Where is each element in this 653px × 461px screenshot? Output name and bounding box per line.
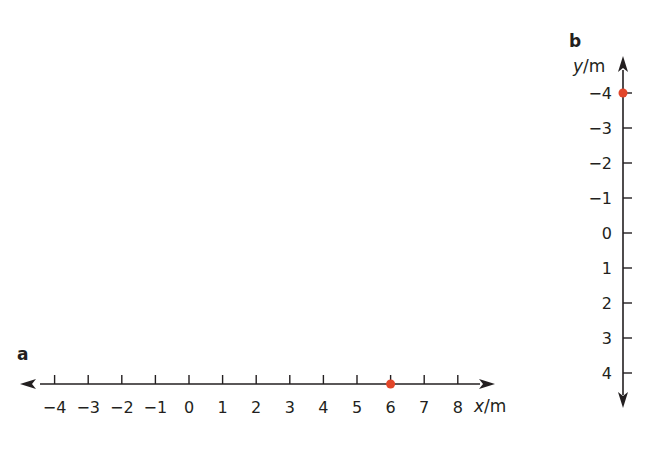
y-data-point (619, 89, 628, 98)
x-tick-label: 6 (386, 398, 396, 417)
y-tick-label: −4 (588, 84, 612, 103)
y-tick-label: −2 (588, 154, 612, 173)
y-axis-tick-labels: −4−3−2−101234 (588, 84, 612, 383)
x-tick-label: 4 (318, 398, 328, 417)
y-axis-unit: /m (583, 56, 605, 76)
x-tick-label: −3 (76, 398, 100, 417)
y-axis-top-arrow-icon (618, 56, 628, 72)
x-tick-label: 1 (218, 398, 228, 417)
x-tick-label: −1 (144, 398, 168, 417)
x-axis-right-arrow-icon (479, 379, 495, 389)
x-tick-label: 2 (251, 398, 261, 417)
x-data-point (386, 380, 395, 389)
y-tick-label: 0 (602, 224, 612, 243)
y-tick-label: 3 (602, 329, 612, 348)
y-tick-label: −3 (588, 119, 612, 138)
x-tick-label: −4 (43, 398, 67, 417)
x-tick-label: 3 (285, 398, 295, 417)
y-tick-label: 4 (602, 364, 612, 383)
x-tick-label: 8 (453, 398, 463, 417)
x-axis-tick-labels: −4−3−2−1012345678 (43, 398, 463, 417)
x-axis-left-arrow-icon (20, 379, 36, 389)
panel-a: a −4−3−2−1012345678 x/m (17, 344, 506, 417)
panel-a-label: a (17, 344, 28, 364)
y-tick-label: 1 (602, 259, 612, 278)
x-axis-unit: /m (484, 396, 506, 416)
y-tick-label: 2 (602, 294, 612, 313)
y-axis-unit-label: y/m (572, 56, 605, 76)
y-axis-ticks (623, 93, 632, 373)
number-line-diagram: a −4−3−2−1012345678 x/m b y/m −4−3−2−101… (0, 0, 653, 461)
x-axis-ticks (55, 375, 458, 384)
x-axis-unit-label: x/m (473, 396, 506, 416)
panel-b-label: b (569, 31, 581, 51)
x-tick-label: 0 (184, 398, 194, 417)
panel-b: b y/m −4−3−2−101234 (569, 31, 632, 408)
x-tick-label: 7 (419, 398, 429, 417)
y-tick-label: −1 (588, 189, 612, 208)
x-tick-label: −2 (110, 398, 134, 417)
x-tick-label: 5 (352, 398, 362, 417)
